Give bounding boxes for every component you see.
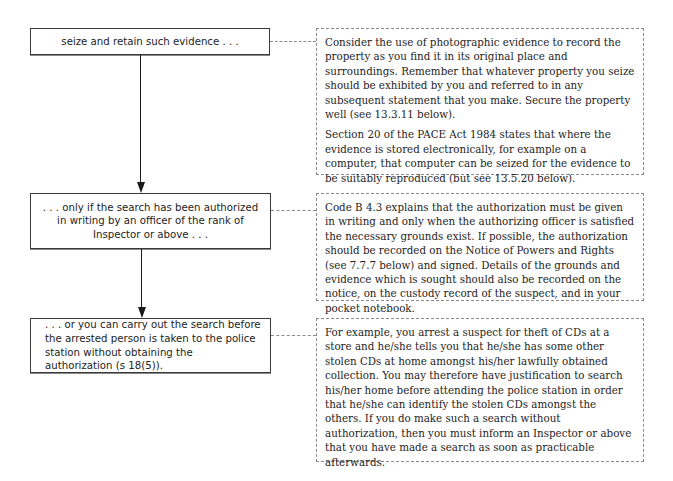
flow-step-text: seize and retain such evidence . . . (61, 35, 238, 49)
flow-connector-line (141, 249, 142, 308)
note-code-b-authorization: Code B 4.3 explains that the authorizati… (316, 193, 644, 301)
note-paragraph: For example, you arrest a suspect for th… (325, 325, 635, 469)
flow-connector-line (140, 55, 141, 183)
note-connector (270, 41, 316, 42)
arrow-down-icon (138, 307, 146, 318)
note-example-search: For example, you arrest a suspect for th… (316, 318, 644, 462)
flow-step-text: . . . only if the search has been author… (39, 201, 262, 242)
note-photographic-evidence: Consider the use of photographic evidenc… (316, 28, 644, 175)
note-connector (271, 210, 316, 211)
flow-step-authorized-search: . . . only if the search has been author… (30, 193, 271, 249)
flow-step-text: . . . or you can carry out the search be… (45, 318, 262, 372)
note-paragraph: Consider the use of photographic evidenc… (325, 35, 635, 121)
note-paragraph: Section 20 of the PACE Act 1984 states t… (325, 127, 635, 185)
flow-step-search-before-station: . . . or you can carry out the search be… (30, 318, 271, 373)
note-connector (271, 335, 316, 336)
flow-step-seize-evidence: seize and retain such evidence . . . (30, 28, 270, 55)
arrow-down-icon (137, 182, 145, 193)
note-paragraph: Code B 4.3 explains that the authorizati… (325, 200, 635, 315)
